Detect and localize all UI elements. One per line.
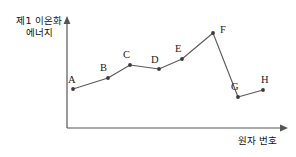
data-point-label: G (231, 81, 239, 92)
ionization-energy-figure: ABCDEFGH 제1 이온화 에너지 원자 번호 (0, 0, 296, 157)
y-axis-label-line1: 제1 이온화 (16, 15, 61, 26)
data-point-marker (211, 31, 215, 35)
data-point-marker (261, 88, 265, 92)
y-axis-label: 제1 이온화 에너지 (12, 15, 66, 39)
data-point-label: D (151, 54, 159, 65)
data-point-label: F (220, 24, 226, 35)
data-point-marker (157, 67, 161, 71)
x-axis-label: 원자 번호 (238, 135, 277, 147)
data-point-marker (128, 63, 132, 67)
y-axis-label-line2: 에너지 (12, 27, 66, 39)
data-point-label: A (68, 74, 76, 85)
data-point-marker (106, 76, 110, 80)
data-point-marker (180, 57, 184, 61)
data-point-label: E (175, 43, 181, 54)
data-point-group: ABCDEFGH (68, 24, 269, 99)
data-point-label: B (100, 62, 107, 73)
data-point-label: C (123, 49, 130, 60)
data-point-label: H (261, 74, 269, 85)
x-axis-arrow-icon (280, 125, 288, 132)
data-point-marker (71, 87, 75, 91)
data-point-marker (236, 95, 240, 99)
